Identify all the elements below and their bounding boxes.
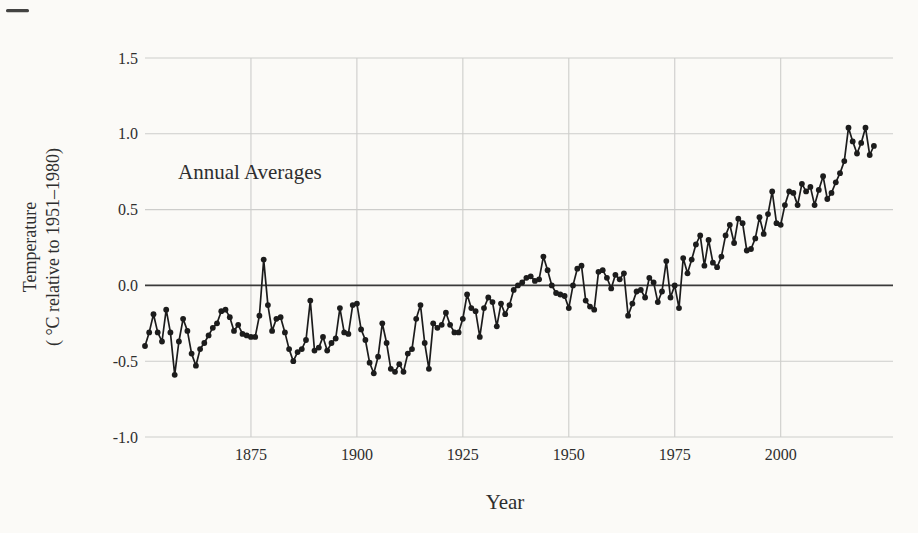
x-tick-label: 1875 [235,446,267,463]
data-point [659,289,665,295]
data-point [858,140,864,146]
data-point [384,340,390,346]
data-point [367,360,373,366]
data-point [405,351,411,357]
data-point [723,233,729,239]
data-point [829,190,835,196]
data-point [613,272,619,278]
data-point [413,316,419,322]
data-point [146,330,152,336]
data-point [511,287,517,293]
data-point [464,292,470,298]
data-point [502,311,508,317]
data-point [655,299,661,305]
y-tick-label: 1.5 [118,50,138,67]
data-point [265,302,271,308]
data-point [337,305,343,311]
data-point [706,237,712,243]
data-point [354,301,360,307]
data-point [490,299,496,305]
data-point [841,158,847,164]
data-point [231,328,237,334]
data-point [299,346,305,352]
data-point [392,369,398,375]
data-point [710,260,716,266]
y-tick-label: -0.5 [113,353,138,370]
data-point [799,181,805,187]
data-point [290,358,296,364]
data-point [668,295,674,301]
data-point [206,333,212,339]
data-point [358,327,364,333]
data-point [646,275,652,281]
data-point [735,216,741,222]
x-tick-label: 1950 [553,446,585,463]
y-axis-title: Temperature ( °C relative to 1951–1980) [20,148,64,346]
figure-region: 187519001925195019752000 1.51.00.50.0-0.… [0,0,918,533]
data-point [307,298,313,304]
data-point [333,336,339,342]
data-point [485,295,491,301]
data-point [422,340,428,346]
data-point [180,316,186,322]
data-point [201,340,207,346]
data-point [473,308,479,314]
data-point [651,280,657,286]
data-point [566,305,572,311]
data-point [562,293,568,299]
data-point [702,263,708,269]
data-point [731,240,737,246]
data-point [676,305,682,311]
x-tick-label: 1975 [659,446,691,463]
data-point [418,302,424,308]
data-point [608,286,614,292]
y-tick-label: -1.0 [113,429,138,446]
data-point [689,257,695,263]
data-point [252,334,258,340]
data-point [782,202,788,208]
data-point [824,196,830,202]
data-point [693,242,699,248]
data-point [163,307,169,313]
data-point [778,222,784,228]
data-point [329,340,335,346]
data-point [481,305,487,311]
data-point [791,190,797,196]
data-point [426,366,432,372]
data-point [193,363,199,369]
data-point [833,179,839,185]
data-point [494,323,500,329]
x-tick-label: 1925 [447,446,479,463]
data-point [727,222,733,228]
data-point [600,267,606,273]
data-point [257,313,263,319]
data-point [303,337,309,343]
data-point [371,370,377,376]
data-point [460,316,466,322]
data-point [761,231,767,237]
data-point [456,330,462,336]
data-point [846,125,852,131]
data-point [197,346,203,352]
data-point [261,257,267,263]
data-point [286,346,292,352]
data-point [752,236,758,242]
x-axis-tick-labels: 187519001925195019752000 [235,446,797,463]
data-point [642,295,648,301]
data-point [625,313,631,319]
data-point [210,325,216,331]
data-point [820,173,826,179]
data-point [663,258,669,264]
data-point [765,211,771,217]
y-axis-tick-labels: 1.51.00.50.0-0.5-1.0 [113,50,138,446]
data-point [324,348,330,354]
data-point [223,307,229,313]
y-tick-label: 0.0 [118,277,138,294]
data-point [545,267,551,273]
data-point [617,276,623,282]
data-point [185,328,191,334]
data-point [151,311,157,317]
data-point [604,275,610,281]
data-point [477,334,483,340]
data-point [379,320,385,326]
